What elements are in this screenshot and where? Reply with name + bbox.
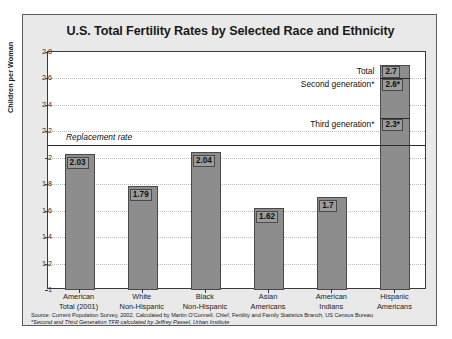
y-tick-label: 1.2 <box>42 258 52 267</box>
y-tick-label: 1.4 <box>42 232 52 241</box>
gridline <box>48 237 425 238</box>
gridline <box>48 105 425 106</box>
y-tick-label: 2.2 <box>42 126 52 135</box>
annotation-label: Total <box>244 66 374 76</box>
footnote: Source: Current Population Survey, 2002,… <box>31 312 431 326</box>
gridline <box>48 211 425 212</box>
y-axis-title: Children per Woman <box>6 42 15 113</box>
chart-card: U.S. Total Fertility Rates by Selected R… <box>22 14 437 326</box>
replacement-rate-label: Replacement rate <box>66 132 132 142</box>
y-tick-label: 2 <box>48 152 52 161</box>
annotation-label: Third generation* <box>244 119 374 129</box>
y-tick-label: 1.8 <box>42 179 52 188</box>
annotation-value-label: 2.6* <box>382 79 403 91</box>
annotation-label: Second generation* <box>244 79 374 89</box>
page-title: U.S. Total Fertility Rates by Selected R… <box>23 24 438 38</box>
x-axis-label-line: Americans <box>354 302 434 312</box>
bar[interactable] <box>65 154 95 290</box>
bar-value-label: 1.79 <box>130 189 152 201</box>
replacement-rate-line <box>48 145 425 146</box>
x-axis-label-line: Hispanic <box>354 292 434 302</box>
bar[interactable] <box>191 152 221 290</box>
annotation-value-label: 2.7 <box>382 66 399 78</box>
gridline <box>48 184 425 185</box>
plot-inner: 2.031.792.041.621.7Total2.7Second genera… <box>48 52 425 288</box>
bar-value-label: 1.7 <box>319 200 336 212</box>
gridline <box>48 158 425 159</box>
x-axis-label: HispanicAmericans <box>354 292 434 311</box>
bar-value-label: 1.62 <box>256 211 278 223</box>
bar-value-label: 2.03 <box>67 157 89 169</box>
bar[interactable] <box>128 186 158 290</box>
bar[interactable] <box>380 65 410 290</box>
y-tick-label: 1.6 <box>42 205 52 214</box>
footnote-note-line: *Second and Third Generation TFR calcula… <box>31 319 431 326</box>
y-tick-label: 2.4 <box>42 99 52 108</box>
annotation-value-label: 2.3* <box>382 119 403 131</box>
footnote-source-line: Source: Current Population Survey, 2002,… <box>31 312 431 319</box>
bar-value-label: 2.04 <box>193 155 215 167</box>
y-tick-label: 2.6 <box>42 73 52 82</box>
gridline <box>48 264 425 265</box>
y-tick-label: 2.8 <box>42 47 52 56</box>
plot-area: 2.031.792.041.621.7Total2.7Second genera… <box>47 51 426 289</box>
